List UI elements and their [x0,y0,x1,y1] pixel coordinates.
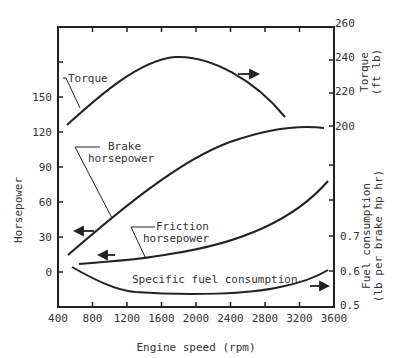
x-tick-label: 2000 [183,312,210,325]
direction-arrows [75,70,328,290]
torque-tick-labels: 260 240 220 200 [335,17,355,133]
left-tick-label: 90 [39,161,52,174]
fuel-tick-label: 0.6 [340,265,360,278]
left-tick-labels: 150 120 90 60 30 0 [32,91,52,279]
left-tick-label: 30 [39,231,52,244]
x-tick-label: 2800 [252,312,279,325]
plot-frame [58,27,334,307]
torque-tick-label: 260 [335,17,355,30]
fuel-tick-label: 0.7 [340,230,360,243]
torque-curve [67,57,285,125]
fuel-tick-label: 0.5 [340,299,360,312]
torque-axis-unit: (ft lb) [370,49,383,95]
x-tick-label: 1600 [148,312,175,325]
fuel-axis-unit: (lb per brake hp hr) [372,170,385,302]
left-tick-label: 0 [45,266,52,279]
x-tick-labels: 400 800 1200 1600 2000 2400 2800 3200 36… [48,312,347,325]
torque-tick-label: 220 [335,85,355,98]
x-tick-label: 2400 [217,312,244,325]
x-tick-label: 3600 [321,312,348,325]
x-tick-label: 3200 [286,312,313,325]
x-tick-label: 400 [48,312,68,325]
sfc-label: Specific fuel consumption [132,273,298,286]
x-tick-label: 800 [83,312,103,325]
friction-label-2: horsepower [143,232,210,245]
left-tick-label: 60 [39,196,52,209]
torque-label: Torque [68,72,108,85]
engine-performance-chart: 400 800 1200 1600 2000 2400 2800 3200 36… [0,0,401,358]
torque-tick-label: 200 [335,120,355,133]
x-tick-label: 1200 [114,312,141,325]
left-tick-label: 120 [32,126,52,139]
brake-label-2: horsepower [88,152,155,165]
left-tick-label: 150 [32,91,52,104]
fuel-tick-labels: 0.7 0.6 0.5 [340,230,360,312]
x-axis-label: Engine speed (rpm) [136,341,255,354]
left-axis-label: Horsepower [12,177,25,244]
torque-tick-label: 240 [335,51,355,64]
